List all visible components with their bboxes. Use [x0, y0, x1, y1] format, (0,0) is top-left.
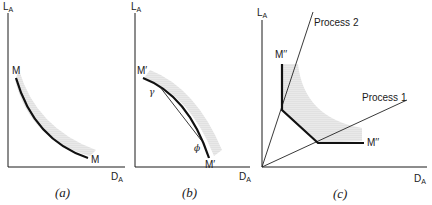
- panel-a: LA DA M M (a): [3, 1, 125, 200]
- curve-label-end: M: [91, 154, 99, 165]
- process-2-ray: [262, 12, 313, 167]
- y-axis-label: LA: [257, 7, 268, 19]
- curve-label-end: M′: [205, 159, 215, 170]
- gamma-label: γ: [149, 87, 155, 97]
- x-axis-label: DA: [414, 173, 426, 185]
- curve-label-start: M: [12, 65, 20, 76]
- curve-label-start: M′′: [275, 49, 287, 60]
- process-1-label: Process 1: [362, 92, 407, 103]
- panel-caption: (b): [182, 185, 197, 200]
- panel-b: M′ M′ γ ϕ LA DA (b): [131, 1, 251, 200]
- x-axis-label: DA: [111, 171, 123, 183]
- process-2-label: Process 2: [314, 17, 359, 28]
- isoquant-figure: LA DA M M (a) M′ M′ γ ϕ LA DA (b) M′′ M′…: [0, 0, 432, 205]
- panel-caption: (a): [55, 185, 70, 200]
- curve-label-end: M′′: [367, 137, 379, 148]
- phi-label: ϕ: [194, 143, 200, 153]
- x-axis-label: DA: [239, 171, 251, 183]
- y-axis-label: LA: [3, 1, 14, 13]
- panel-caption: (c): [333, 186, 347, 201]
- y-axis-label: LA: [131, 1, 142, 13]
- shaded-band: [282, 64, 362, 143]
- curve-label-start: M′: [137, 65, 147, 76]
- shaded-band: [15, 70, 96, 156]
- panel-c: M′′ M′′ Process 2 Process 1 LA DA (c): [257, 7, 427, 201]
